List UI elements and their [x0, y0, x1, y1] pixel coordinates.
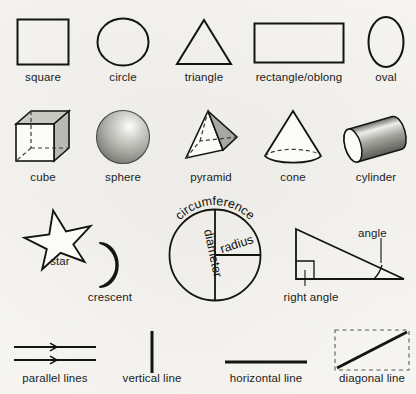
right-angle-label: right angle — [284, 292, 339, 304]
radius-label: radius — [218, 232, 255, 256]
vertical-line-label: vertical line — [123, 373, 182, 385]
cylinder-label: cylinder — [356, 172, 396, 184]
rectangle-label: rectangle/oblong — [256, 72, 343, 84]
square-label: square — [25, 72, 61, 84]
sphere-solid — [93, 108, 153, 166]
cube-solid — [12, 108, 74, 166]
cone-label: cone — [280, 172, 305, 184]
diagonal-line — [334, 329, 410, 371]
parallel-lines — [12, 340, 98, 366]
angle-label: angle — [358, 228, 387, 240]
cylinder-solid — [340, 115, 412, 163]
rectangle-shape — [253, 22, 345, 64]
right-triangle-angles-diagram — [286, 210, 412, 302]
cone-solid — [258, 108, 328, 166]
circle-shape — [96, 17, 150, 67]
sphere-label: sphere — [105, 172, 141, 184]
triangle-shape — [175, 18, 233, 66]
vertical-line — [148, 330, 156, 374]
square-shape — [16, 18, 72, 66]
pyramid-solid — [180, 108, 242, 166]
cube-label: cube — [30, 172, 55, 184]
circle-label: circle — [109, 72, 136, 84]
crescent-label: crescent — [88, 292, 132, 304]
oval-shape — [366, 15, 406, 69]
diagonal-line-label: diagonal line — [339, 373, 405, 385]
triangle-label: triangle — [185, 72, 224, 84]
oval-label: oval — [375, 72, 397, 84]
horizontal-line — [224, 358, 308, 366]
star-label: star — [50, 256, 70, 268]
shapes-reference-chart: square circle triangle rectangle/oblong … — [0, 0, 416, 394]
circle-measurements-diagram: circumference diameter radius — [158, 198, 274, 308]
pyramid-label: pyramid — [190, 172, 232, 184]
crescent-shape — [88, 240, 128, 290]
horizontal-line-label: horizontal line — [230, 373, 302, 385]
parallel-lines-label: parallel lines — [22, 373, 87, 385]
